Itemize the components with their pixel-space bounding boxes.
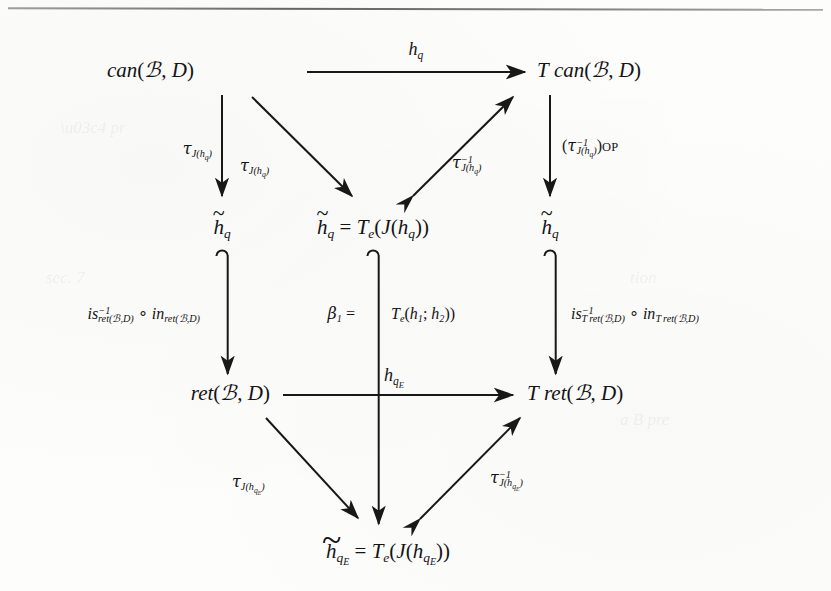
label-right-vertical: (τ−1J(hq))OP [562, 138, 619, 155]
label-right-diagonal: τ−1J(hq) [452, 155, 481, 172]
node-tret: T ret(ℬ, D) [527, 383, 623, 404]
inclusion-arrow-center [368, 250, 379, 524]
label-left-vertical-outer: τJ(hq) [183, 141, 212, 158]
node-htilde-left: ~hq [213, 217, 230, 238]
label-bottom-left-diagonal: τJ(hqE) [232, 474, 265, 493]
label-top-horizontal: hq [409, 40, 424, 58]
arrow-layer [0, 0, 831, 591]
diagram-canvas: sec. 7 tion a B pre \u03c4 pr [0, 0, 831, 591]
label-right-inclusion: is−1T ret(ℬ,D) ∘ inT ret(ℬ,D) [571, 306, 699, 322]
node-tcan: T can(ℬ, D) [537, 60, 641, 81]
label-bottom-right-diagonal: τ−1J(hqE) [490, 470, 523, 489]
arrow-ret-to-htilde-bottom [266, 418, 358, 518]
node-htilde-bottom: ~hqE = Te(J(hqE)) [326, 541, 450, 563]
arrow-can-to-htilde-center [252, 97, 352, 196]
label-left-inclusion: is−1ret(ℬ,D) ∘ inret(ℬ,D) [88, 306, 200, 322]
arrow-htilde-center-to-tcan [413, 97, 513, 196]
node-ret: ret(ℬ, D) [191, 383, 270, 404]
label-left-diagonal: τJ(hq) [240, 158, 269, 175]
label-center-inclusion-right: Te(h1; h2)) [391, 306, 455, 322]
inclusion-arrow-right [545, 250, 556, 374]
node-htilde-right: ~hq [541, 217, 558, 238]
label-bottom-horizontal: hqE [384, 366, 404, 385]
node-can: can(ℬ, D) [107, 60, 194, 81]
label-center-inclusion-left: β1 = [328, 306, 355, 322]
node-htilde-center: ~hq = Te(J(hq)) [317, 217, 429, 238]
inclusion-arrow-left [217, 250, 228, 374]
